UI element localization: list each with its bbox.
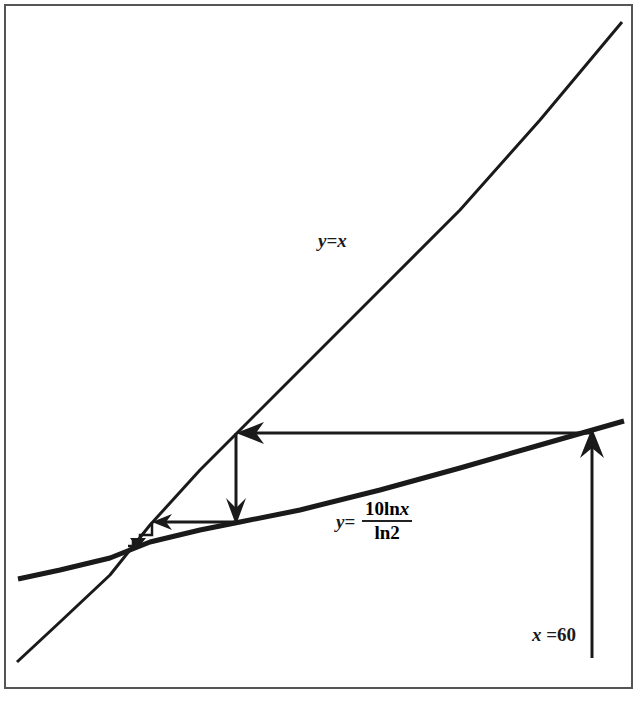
diagram-canvas bbox=[0, 0, 638, 703]
log-curve-fraction: 10lnx ln2 bbox=[362, 498, 412, 544]
identity-line-label: y=x bbox=[318, 230, 347, 252]
log-curve-label: y= bbox=[336, 511, 355, 533]
start-value-label: x =60 bbox=[532, 624, 576, 646]
log-curve bbox=[18, 421, 624, 579]
fraction-denominator: ln2 bbox=[362, 522, 412, 544]
fraction-numerator: 10lnx bbox=[362, 498, 412, 522]
identity-line bbox=[17, 22, 622, 662]
